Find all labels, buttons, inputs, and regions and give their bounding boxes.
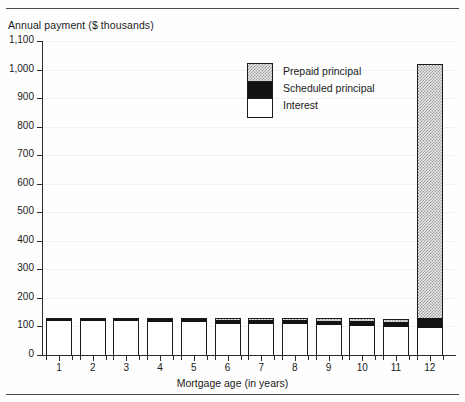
x-axis-line	[42, 355, 456, 356]
legend-label-prepaid-principal: Prepaid principal	[283, 65, 361, 77]
gridline	[43, 184, 455, 185]
y-axis-tick	[37, 184, 43, 185]
bar-segment-interest	[147, 322, 173, 355]
legend-swatch-scheduled-principal	[248, 82, 272, 99]
gridline	[43, 212, 455, 213]
x-axis-tick-minor	[443, 356, 444, 360]
x-axis-tick	[329, 356, 330, 361]
bar-segment-scheduled-principal	[417, 318, 443, 328]
x-axis-tick-label: 2	[81, 362, 105, 373]
x-axis-tick-label: 10	[350, 362, 374, 373]
bar-stack[interactable]	[147, 318, 173, 355]
gridline	[43, 127, 455, 128]
bar-segment-interest	[417, 328, 443, 355]
legend-label-interest: Interest	[283, 99, 318, 111]
bar-stack[interactable]	[349, 318, 375, 355]
bar-segment-interest	[80, 321, 106, 355]
gridline	[43, 41, 455, 42]
bar-segment-interest	[113, 321, 139, 355]
bar-stack[interactable]	[383, 319, 409, 355]
bar-stack[interactable]	[417, 64, 443, 355]
x-axis-tick	[430, 356, 431, 361]
x-axis-tick-label: 12	[418, 362, 442, 373]
bar-segment-interest	[215, 324, 241, 355]
x-axis-tick	[59, 356, 60, 361]
y-axis-tick	[37, 70, 43, 71]
legend-swatch-interest	[248, 99, 272, 116]
y-axis-tick-label: 300	[0, 262, 34, 273]
x-axis-tick-minor	[383, 356, 384, 360]
y-axis-tick-label: 1,000	[0, 63, 34, 74]
y-axis-tick-label: 100	[0, 319, 34, 330]
x-axis-tick-minor	[274, 356, 275, 360]
bar-stack[interactable]	[46, 318, 72, 355]
bar-stack[interactable]	[282, 318, 308, 355]
bar-stack[interactable]	[80, 318, 106, 355]
y-axis-tick	[37, 355, 43, 356]
x-axis-tick-label: 5	[182, 362, 206, 373]
x-axis-tick-label: 7	[249, 362, 273, 373]
gridline	[43, 155, 455, 156]
x-axis-tick	[126, 356, 127, 361]
x-axis-tick-minor	[207, 356, 208, 360]
x-axis-tick	[362, 356, 363, 361]
x-axis-tick	[160, 356, 161, 361]
y-axis-tick	[37, 155, 43, 156]
y-axis-tick-label: 1,100	[0, 34, 34, 45]
gridline	[43, 298, 455, 299]
y-axis-tick	[37, 212, 43, 213]
bar-segment-interest	[46, 321, 72, 355]
x-axis-tick-minor	[173, 356, 174, 360]
y-axis-tick	[37, 127, 43, 128]
x-axis-tick-minor	[181, 356, 182, 360]
x-axis-tick-minor	[417, 356, 418, 360]
x-axis-tick	[93, 356, 94, 361]
x-axis-tick	[396, 356, 397, 361]
x-axis-title: Mortgage age (in years)	[0, 377, 465, 389]
bar-segment-interest	[181, 322, 207, 355]
bar-stack[interactable]	[316, 318, 342, 355]
bar-stack[interactable]	[248, 318, 274, 355]
x-axis-tick-minor	[282, 356, 283, 360]
legend-swatch-stack	[247, 63, 273, 118]
y-axis-tick-label: 900	[0, 91, 34, 102]
x-axis-tick-label: 4	[148, 362, 172, 373]
y-axis-tick	[37, 326, 43, 327]
bar-stack[interactable]	[181, 318, 207, 355]
y-axis-tick-label: 800	[0, 120, 34, 131]
bar-segment-prepaid-principal	[417, 64, 443, 318]
bar-segment-interest	[316, 325, 342, 355]
bar-segment-interest	[383, 327, 409, 355]
x-axis-tick-label: 3	[114, 362, 138, 373]
x-axis-tick-minor	[106, 356, 107, 360]
x-axis-tick-label: 9	[317, 362, 341, 373]
y-axis-tick	[37, 41, 43, 42]
y-axis-tick-label: 0	[0, 348, 34, 359]
y-axis-tick-label: 500	[0, 205, 34, 216]
plot-area: 01002003004005006007008009001,0001,100 1…	[0, 0, 465, 402]
x-axis-tick-minor	[215, 356, 216, 360]
x-axis-tick-minor	[349, 356, 350, 360]
figure-canvas: Annual payment ($ thousands) 01002003004…	[0, 0, 465, 402]
y-axis-line	[42, 41, 43, 356]
legend-label-scheduled-principal: Scheduled principal	[283, 82, 375, 94]
x-axis-tick-minor	[46, 356, 47, 360]
bar-segment-interest	[248, 324, 274, 355]
bar-stack[interactable]	[215, 318, 241, 355]
x-axis-tick-label: 11	[384, 362, 408, 373]
x-axis-tick-minor	[342, 356, 343, 360]
y-axis-tick	[37, 241, 43, 242]
x-axis-tick-minor	[409, 356, 410, 360]
x-axis-tick-label: 8	[283, 362, 307, 373]
x-axis-tick-minor	[308, 356, 309, 360]
x-axis-tick	[261, 356, 262, 361]
bar-segment-interest	[349, 326, 375, 355]
x-axis-tick-minor	[139, 356, 140, 360]
y-axis-tick	[37, 98, 43, 99]
x-axis-tick	[194, 356, 195, 361]
legend-swatch-prepaid-principal	[248, 64, 272, 82]
bar-stack[interactable]	[113, 318, 139, 355]
x-axis-tick-minor	[113, 356, 114, 360]
y-axis-tick	[37, 298, 43, 299]
x-axis-tick-minor	[248, 356, 249, 360]
